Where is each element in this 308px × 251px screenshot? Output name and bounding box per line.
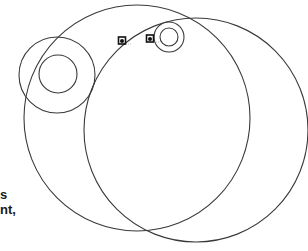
marker-right-icon <box>147 35 160 42</box>
top-ring-inner <box>160 28 178 46</box>
marker-group <box>119 35 160 44</box>
left-ring-inner <box>39 55 77 93</box>
top-ring-outer <box>154 22 184 52</box>
large-circle-right <box>84 18 308 242</box>
large-circle-left <box>24 5 250 231</box>
text-fragment-1: s <box>0 188 7 202</box>
text-fragment-2: nt, <box>0 203 16 217</box>
circle-group <box>19 5 308 242</box>
circles-diagram <box>0 0 308 251</box>
left-ring-outer <box>19 37 95 113</box>
